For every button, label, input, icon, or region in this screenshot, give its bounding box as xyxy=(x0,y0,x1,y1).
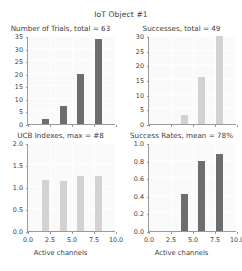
y-tick-label: 0.6 xyxy=(134,175,144,183)
x-tick-mark xyxy=(215,125,216,127)
x-tick-label: 5.0 xyxy=(188,236,198,244)
x-tick-mark xyxy=(237,125,238,127)
bar xyxy=(60,106,67,124)
y-tick-label: 2.0 xyxy=(13,140,23,148)
x-tick-mark xyxy=(215,232,216,234)
gridline-vertical xyxy=(72,37,73,124)
x-tick-label: 10.0 xyxy=(230,236,242,244)
y-tick-label: 5 xyxy=(19,108,23,116)
y-tick-label: 0 xyxy=(140,121,144,129)
y-tick-mark xyxy=(147,214,149,215)
x-tick-label: 0.0 xyxy=(144,236,154,244)
bar xyxy=(198,77,205,124)
y-tick-label: 25 xyxy=(136,48,144,56)
y-tick-label: 20 xyxy=(15,71,23,79)
subplot-title: Success Rates, mean = 78% xyxy=(121,131,242,140)
gridline-horizontal xyxy=(28,35,115,36)
x-tick-mark xyxy=(193,125,194,127)
y-tick-mark xyxy=(147,66,149,67)
y-tick-mark xyxy=(26,75,28,76)
subplot-successes: Successes, total = 49 051015202530 xyxy=(121,24,242,136)
bar xyxy=(216,154,223,231)
y-tick-label: 10 xyxy=(15,96,23,104)
y-tick-label: 0 xyxy=(19,121,23,129)
y-tick-mark xyxy=(147,197,149,198)
y-tick-label: 25 xyxy=(15,58,23,66)
y-tick-mark xyxy=(147,144,149,145)
y-tick-mark xyxy=(147,179,149,180)
gridline-vertical xyxy=(171,144,172,231)
bar xyxy=(216,36,223,124)
y-tick-mark xyxy=(26,166,28,167)
y-tick-label: 0.0 xyxy=(13,228,23,236)
y-tick-mark xyxy=(147,37,149,38)
x-tick-mark xyxy=(116,232,117,234)
y-tick-mark xyxy=(26,144,28,145)
x-tick-mark xyxy=(149,232,150,234)
y-tick-label: 10 xyxy=(136,92,144,100)
figure-canvas: IoT Object #1 Number of Trials, total = … xyxy=(0,0,242,271)
x-tick-mark xyxy=(28,125,29,127)
y-tick-mark xyxy=(147,162,149,163)
gridline-vertical xyxy=(193,37,194,124)
bar xyxy=(77,176,84,231)
x-axis-label: Active channels xyxy=(121,249,242,257)
bar xyxy=(42,180,49,231)
x-tick-mark xyxy=(72,232,73,234)
x-tick-mark xyxy=(94,232,95,234)
y-tick-label: 30 xyxy=(136,33,144,41)
y-tick-mark xyxy=(26,188,28,189)
gridline-vertical xyxy=(50,37,51,124)
bar xyxy=(60,181,67,231)
gridline-horizontal xyxy=(28,142,115,143)
subplot-title: UCB Indexes, max = #8 xyxy=(0,131,121,140)
gridline-vertical xyxy=(116,37,117,124)
y-tick-label: 0.5 xyxy=(13,206,23,214)
plot-area: 0.00.51.01.52.00.02.55.07.510.0 xyxy=(27,144,115,232)
y-tick-mark xyxy=(26,50,28,51)
subplot-ucb-indexes: UCB Indexes, max = #8 0.00.51.01.52.00.0… xyxy=(0,131,121,271)
x-tick-label: 0.0 xyxy=(23,236,33,244)
x-tick-mark xyxy=(171,232,172,234)
y-tick-label: 15 xyxy=(136,77,144,85)
figure-suptitle: IoT Object #1 xyxy=(0,10,242,19)
subplot-number-of-trials: Number of Trials, total = 63 05101520253… xyxy=(0,24,121,136)
y-tick-mark xyxy=(26,37,28,38)
gridline-vertical xyxy=(237,37,238,124)
y-tick-label: 1.0 xyxy=(13,184,23,192)
x-tick-mark xyxy=(50,125,51,127)
bar xyxy=(95,176,102,231)
gridline-vertical xyxy=(116,144,117,231)
y-tick-label: 0.4 xyxy=(134,193,144,201)
x-tick-mark xyxy=(50,232,51,234)
y-tick-label: 15 xyxy=(15,83,23,91)
plot-area: 0.00.20.40.60.81.00.02.55.07.510.0 xyxy=(148,144,236,232)
y-tick-label: 5 xyxy=(140,106,144,114)
x-axis-label: Active channels xyxy=(0,249,121,257)
x-tick-mark xyxy=(149,125,150,127)
x-tick-label: 7.5 xyxy=(210,236,220,244)
y-tick-mark xyxy=(26,112,28,113)
x-tick-label: 5.0 xyxy=(67,236,77,244)
y-tick-label: 1.5 xyxy=(13,162,23,170)
x-tick-label: 2.5 xyxy=(166,236,176,244)
y-tick-label: 0.2 xyxy=(134,210,144,218)
y-tick-mark xyxy=(147,81,149,82)
y-tick-mark xyxy=(147,110,149,111)
x-tick-mark xyxy=(237,232,238,234)
y-tick-mark xyxy=(26,210,28,211)
gridline-vertical xyxy=(237,144,238,231)
x-tick-mark xyxy=(193,232,194,234)
y-tick-mark xyxy=(147,52,149,53)
y-tick-label: 35 xyxy=(15,33,23,41)
gridline-horizontal xyxy=(149,142,236,143)
x-tick-mark xyxy=(94,125,95,127)
gridline-vertical xyxy=(171,37,172,124)
bar xyxy=(42,119,49,124)
bar xyxy=(181,115,188,124)
x-tick-label: 7.5 xyxy=(89,236,99,244)
subplot-title: Number of Trials, total = 63 xyxy=(0,24,121,33)
y-tick-mark xyxy=(26,62,28,63)
x-tick-mark xyxy=(116,125,117,127)
y-tick-label: 0.8 xyxy=(134,158,144,166)
